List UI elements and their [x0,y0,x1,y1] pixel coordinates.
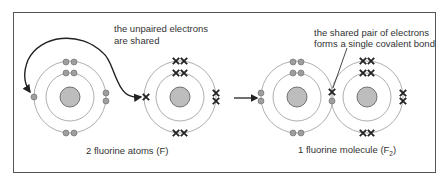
nucleus [170,87,190,107]
annotation-unpaired-line2: are shared [114,35,159,46]
nucleus [287,87,307,107]
nucleus [60,87,80,107]
annotation-unpaired-line1: the unpaired electrons [114,23,208,34]
fluorine-bonding-diagram: the unpaired electrons are shared 2 fluo… [0,0,447,184]
caption-molecule: 1 fluorine molecule (F2) [298,144,396,157]
annotation-shared-line1: the shared pair of electrons [314,27,429,38]
caption-atoms: 2 fluorine atoms (F) [86,145,168,156]
nucleus [357,87,377,107]
unpaired-electron-dot [31,94,37,100]
annotation-shared-line2: forms a single covalent bond [314,38,435,49]
